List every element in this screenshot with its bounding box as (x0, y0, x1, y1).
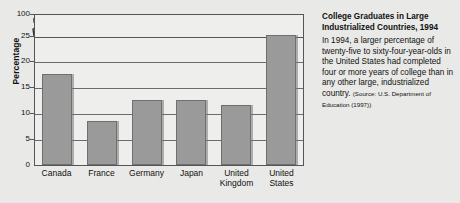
x-tick-label-france: France (79, 168, 124, 188)
y-tick-label-25: 25 (21, 32, 30, 40)
y-tick-label-10: 10 (21, 109, 30, 117)
y-axis: 100 25 20 15 10 5 0 Percentage (0, 0, 34, 166)
axis-break-band (35, 15, 303, 38)
bar-united-kingdom[interactable] (221, 105, 251, 165)
bar-germany[interactable] (132, 100, 162, 165)
bar-united-states[interactable] (266, 35, 296, 165)
y-tick-label-20: 20 (21, 57, 30, 65)
x-axis: Canada France Germany Japan United Kingd… (34, 168, 304, 188)
bar-slot-france (80, 37, 125, 165)
bar-slot-united-states (258, 37, 303, 165)
bar-slot-germany (124, 37, 169, 165)
y-axis-title: Percentage (11, 19, 21, 103)
x-tick-label-germany: Germany (124, 168, 169, 188)
y-tick-label-0: 0 (26, 161, 30, 169)
figure-root: 100 25 20 15 10 5 0 Percentage (0, 0, 460, 203)
bar-canada[interactable] (42, 74, 72, 165)
x-tick-label-canada: Canada (34, 168, 79, 188)
bar-france[interactable] (87, 121, 117, 165)
x-tick-label-united-states: United States (259, 168, 304, 188)
bar-slot-canada (35, 37, 80, 165)
bar-series (35, 37, 303, 165)
bar-japan[interactable] (176, 100, 206, 165)
caption-body: In 1994, a larger percentage of twenty-f… (322, 36, 456, 110)
y-tick-label-15: 15 (21, 83, 30, 91)
bar-chart: 100 25 20 15 10 5 0 Percentage (0, 0, 316, 203)
x-tick-label-japan: Japan (169, 168, 214, 188)
x-tick-label-united-kingdom: United Kingdom (214, 168, 259, 188)
caption-title: College Graduates in Large Industrialize… (322, 12, 456, 33)
y-tick-label-100: 100 (17, 10, 30, 18)
bar-slot-japan (169, 37, 214, 165)
caption-body-text: In 1994, a larger percentage of twenty-f… (322, 36, 453, 98)
bar-slot-united-kingdom (214, 37, 259, 165)
plot-area (34, 14, 304, 166)
caption-panel: College Graduates in Large Industrialize… (322, 12, 456, 110)
